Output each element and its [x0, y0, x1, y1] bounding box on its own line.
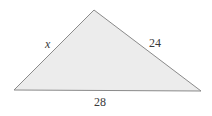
triangle-shape — [14, 10, 201, 91]
side-label-left: x — [44, 37, 51, 51]
triangle-diagram: x 24 28 — [0, 0, 212, 116]
side-label-right: 24 — [149, 36, 161, 50]
side-label-bottom: 28 — [94, 95, 106, 109]
